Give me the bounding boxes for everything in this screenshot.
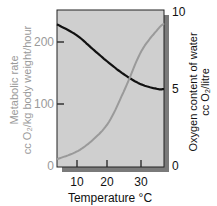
left-axis-title: Metabolic rate bbox=[8, 55, 20, 124]
left-tick-label: 100 bbox=[34, 97, 54, 111]
left-y-axis: 200 100 0 Metabolic rate cc O₂/kg body w… bbox=[8, 25, 64, 173]
left-axis-units: cc O₂/kg body weight/hour bbox=[21, 25, 33, 154]
chart: 10 20 30 Temperature °C 200 100 0 Metabo… bbox=[0, 0, 217, 206]
left-tick-label: 0 bbox=[47, 159, 54, 173]
right-tick-label: 5 bbox=[172, 82, 179, 96]
left-tick-label: 200 bbox=[34, 35, 54, 49]
right-y-axis: 10 5 0 Oxygen content of water cc O₂/lit… bbox=[172, 5, 211, 173]
right-axis-title: Oxygen content of water bbox=[187, 32, 199, 152]
right-tick-label: 0 bbox=[172, 159, 179, 173]
x-tick-label: 30 bbox=[134, 175, 148, 189]
right-tick-label: 10 bbox=[172, 5, 186, 19]
x-axis-title: Temperature °C bbox=[68, 191, 152, 205]
x-tick-label: 20 bbox=[100, 175, 114, 189]
right-axis-units: cc O₂/litre bbox=[199, 68, 211, 116]
x-tick-label: 10 bbox=[70, 175, 84, 189]
